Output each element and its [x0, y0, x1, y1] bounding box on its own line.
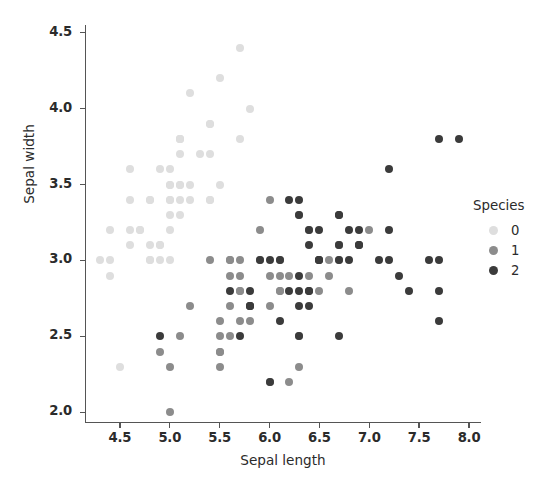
data-point	[266, 272, 274, 280]
data-point	[405, 287, 413, 295]
data-point	[176, 181, 184, 189]
data-point	[216, 317, 224, 325]
x-axis-spine	[85, 422, 481, 423]
data-point	[206, 120, 214, 128]
data-point	[156, 348, 164, 356]
y-tick-label: 3.5	[32, 176, 72, 191]
legend-item[interactable]: 0	[489, 220, 549, 240]
data-point	[226, 287, 234, 295]
data-point	[266, 302, 274, 310]
data-point	[216, 363, 224, 371]
y-tick-label: 2.5	[32, 327, 72, 342]
x-tick-label: 7.5	[394, 430, 444, 445]
data-point	[176, 150, 184, 158]
data-point	[266, 256, 274, 264]
y-tick-mark	[80, 260, 85, 261]
x-tick-label: 7.0	[344, 430, 394, 445]
data-point	[216, 74, 224, 82]
y-tick-label: 4.5	[32, 24, 72, 39]
data-point	[106, 226, 114, 234]
data-point	[166, 196, 174, 204]
data-point	[435, 287, 443, 295]
x-tick-mark	[219, 423, 220, 428]
x-tick-label: 6.0	[245, 430, 295, 445]
data-point	[206, 196, 214, 204]
data-point	[176, 135, 184, 143]
x-tick-mark	[269, 423, 270, 428]
x-tick-label: 5.0	[145, 430, 195, 445]
legend: Species 012	[489, 198, 549, 280]
x-tick-mark	[319, 423, 320, 428]
legend-label: 1	[511, 243, 519, 258]
y-tick-label: 4.0	[32, 100, 72, 115]
y-tick-mark	[80, 32, 85, 33]
legend-label: 2	[511, 263, 519, 278]
y-axis-label: Sepal width	[21, 94, 37, 234]
data-point	[216, 181, 224, 189]
data-point	[256, 226, 264, 234]
legend-marker-icon	[489, 246, 498, 255]
data-point	[196, 150, 204, 158]
x-tick-mark	[119, 423, 120, 428]
legend-title: Species	[473, 198, 549, 213]
data-point	[176, 211, 184, 219]
data-point	[126, 226, 134, 234]
data-point	[216, 348, 224, 356]
y-tick-label: 2.0	[32, 403, 72, 418]
data-point	[136, 226, 144, 234]
data-point	[455, 135, 463, 143]
data-point	[276, 287, 284, 295]
legend-label: 0	[511, 223, 519, 238]
data-point	[246, 317, 254, 325]
data-point	[186, 181, 194, 189]
plot-area	[85, 25, 481, 423]
x-tick-label: 6.5	[294, 430, 344, 445]
x-tick-mark	[169, 423, 170, 428]
legend-item[interactable]: 1	[489, 240, 549, 260]
data-point	[395, 272, 403, 280]
legend-marker-icon	[489, 226, 498, 235]
y-tick-mark	[80, 336, 85, 337]
data-point	[236, 135, 244, 143]
data-point	[236, 44, 244, 52]
x-tick-label: 8.0	[444, 430, 494, 445]
data-point	[116, 363, 124, 371]
data-point	[266, 378, 274, 386]
x-tick-mark	[468, 423, 469, 428]
scatter-plot-figure: 2.02.53.03.54.04.5 4.55.05.56.06.57.07.5…	[0, 0, 551, 492]
data-point	[246, 287, 254, 295]
legend-marker-icon	[489, 266, 498, 275]
data-point	[106, 272, 114, 280]
legend-item[interactable]: 2	[489, 260, 549, 280]
x-tick-label: 5.5	[195, 430, 245, 445]
data-point	[276, 256, 284, 264]
x-tick-mark	[418, 423, 419, 428]
data-point	[246, 105, 254, 113]
data-point	[126, 196, 134, 204]
y-tick-mark	[80, 184, 85, 185]
data-point	[236, 272, 244, 280]
data-point	[166, 211, 174, 219]
y-axis-spine	[85, 25, 86, 423]
data-point	[166, 181, 174, 189]
x-tick-mark	[369, 423, 370, 428]
data-point	[246, 302, 254, 310]
data-point	[236, 317, 244, 325]
y-tick-mark	[80, 412, 85, 413]
data-point	[435, 135, 443, 143]
data-point	[186, 302, 194, 310]
data-point	[186, 196, 194, 204]
data-point	[166, 363, 174, 371]
x-tick-label: 4.5	[95, 430, 145, 445]
data-point	[266, 196, 274, 204]
legend-entries: 012	[489, 220, 549, 280]
x-axis-label: Sepal length	[85, 452, 481, 468]
data-point	[236, 287, 244, 295]
data-point	[146, 196, 154, 204]
data-point	[276, 317, 284, 325]
data-point	[166, 226, 174, 234]
data-point	[276, 272, 284, 280]
data-point	[206, 150, 214, 158]
y-tick-label: 3.0	[32, 251, 72, 266]
y-tick-mark	[80, 108, 85, 109]
